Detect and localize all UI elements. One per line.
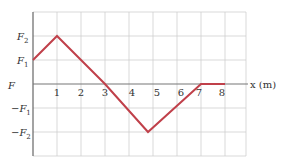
x-tick-2: 2 bbox=[78, 87, 84, 98]
y-tick-F1: F1 bbox=[16, 55, 28, 69]
y-tick-neg-F2: −F2 bbox=[11, 127, 31, 141]
y-axis-label: F bbox=[7, 80, 16, 91]
force-position-chart: 1 2 3 4 5 6 7 8 x (m) F F2 F1 −F1 −F2 bbox=[0, 0, 283, 161]
x-tick-3: 3 bbox=[102, 87, 108, 98]
x-tick-1: 1 bbox=[54, 87, 60, 98]
x-tick-4: 4 bbox=[129, 87, 135, 98]
y-tick-neg-F1: −F1 bbox=[11, 103, 31, 117]
x-tick-5: 5 bbox=[154, 87, 160, 98]
x-tick-7: 7 bbox=[196, 87, 202, 98]
x-axis-label: x (m) bbox=[250, 79, 276, 90]
x-tick-8: 8 bbox=[219, 87, 225, 98]
x-tick-6: 6 bbox=[178, 87, 184, 98]
x-tick-labels: 1 2 3 4 5 6 7 8 bbox=[54, 87, 225, 98]
y-tick-F2: F2 bbox=[16, 31, 28, 45]
